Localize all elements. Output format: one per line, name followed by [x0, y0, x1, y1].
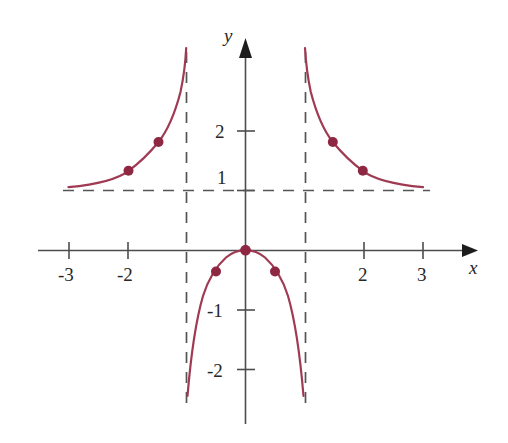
- x-axis-arrowhead: [462, 244, 478, 257]
- y-axis-arrowhead: [239, 38, 252, 58]
- data-point-2: [358, 166, 368, 176]
- x-tick-label--3: -3: [58, 265, 74, 284]
- y-tick-label-2: 2: [215, 122, 225, 141]
- data-point--2: [124, 166, 134, 176]
- x-tick-label--2: -2: [117, 265, 133, 284]
- x-tick-label-2: 2: [358, 265, 368, 284]
- graph-figure: -3 -2 2 3 2 1 -1 -2 y x: [0, 0, 508, 443]
- data-point-1.5: [328, 137, 338, 147]
- data-point--0.5: [211, 267, 221, 277]
- y-tick-label--1: -1: [207, 301, 223, 320]
- data-point--1.5: [154, 137, 164, 147]
- plot-canvas: [0, 0, 508, 443]
- y-tick-label-1: 1: [217, 168, 227, 187]
- x-axis-name-label: x: [469, 258, 477, 277]
- data-point-0.5: [270, 267, 280, 277]
- y-axis-name-label: y: [224, 26, 232, 45]
- y-axis: [239, 38, 252, 424]
- x-axis: [38, 244, 478, 257]
- x-tick-label-3: 3: [417, 265, 427, 284]
- data-point-origin: [240, 245, 251, 256]
- y-tick-label--2: -2: [207, 361, 223, 380]
